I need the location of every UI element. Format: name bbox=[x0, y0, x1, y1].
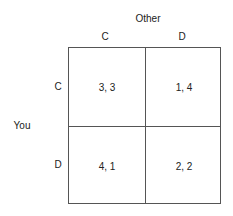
row-header-d: D bbox=[52, 160, 64, 170]
cell-dd: 2, 2 bbox=[146, 127, 222, 205]
row-header-c: C bbox=[52, 82, 64, 92]
column-player-label: Other bbox=[128, 14, 168, 24]
cell-cd: 1, 4 bbox=[146, 48, 222, 126]
column-header-d: D bbox=[172, 32, 192, 42]
payoff-matrix: 3, 3 1, 4 4, 1 2, 2 bbox=[68, 47, 221, 204]
column-header-c: C bbox=[95, 32, 115, 42]
row-player-label: You bbox=[10, 121, 34, 131]
cell-dc: 4, 1 bbox=[69, 127, 145, 205]
cell-cc: 3, 3 bbox=[69, 48, 145, 126]
